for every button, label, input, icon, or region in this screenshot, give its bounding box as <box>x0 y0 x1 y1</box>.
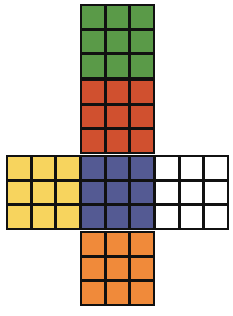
face-cell <box>181 206 203 228</box>
face-cell <box>131 282 153 304</box>
face-cell <box>33 182 55 204</box>
face-cell <box>107 130 129 152</box>
face-cell <box>82 182 104 204</box>
face-cell <box>131 206 153 228</box>
face-cell <box>57 182 79 204</box>
face-cell <box>33 206 55 228</box>
face-cell <box>205 182 227 204</box>
face-cell <box>8 182 30 204</box>
face-cell <box>131 6 153 28</box>
face-cell <box>181 157 203 179</box>
face-cell <box>181 182 203 204</box>
face-left-yellow <box>6 155 81 230</box>
face-cell <box>131 233 153 255</box>
face-cell <box>131 55 153 77</box>
face-cell <box>82 81 104 103</box>
face-cell <box>82 6 104 28</box>
face-cell <box>131 31 153 53</box>
face-cell <box>57 157 79 179</box>
face-cell <box>82 233 104 255</box>
face-cell <box>131 106 153 128</box>
face-cell <box>107 6 129 28</box>
face-cell <box>82 55 104 77</box>
face-cell <box>82 130 104 152</box>
face-cell <box>107 31 129 53</box>
face-cell <box>107 81 129 103</box>
face-cell <box>156 182 178 204</box>
face-cell <box>107 258 129 280</box>
face-cell <box>131 157 153 179</box>
face-cell <box>156 206 178 228</box>
face-cell <box>82 282 104 304</box>
face-top-green <box>80 4 155 79</box>
face-cell <box>205 206 227 228</box>
face-cell <box>82 106 104 128</box>
face-cell <box>131 258 153 280</box>
face-center-blue <box>80 155 155 230</box>
face-cell <box>82 31 104 53</box>
face-cell <box>107 282 129 304</box>
face-cell <box>205 157 227 179</box>
face-cell <box>107 157 129 179</box>
face-cell <box>33 157 55 179</box>
face-cell <box>107 233 129 255</box>
face-cell <box>156 157 178 179</box>
face-cell <box>57 206 79 228</box>
face-cell <box>107 55 129 77</box>
face-cell <box>131 130 153 152</box>
face-cell <box>82 258 104 280</box>
face-cell <box>131 182 153 204</box>
face-right-white <box>154 155 229 230</box>
face-bottom-orange <box>80 231 155 306</box>
face-cell <box>107 182 129 204</box>
face-cell <box>8 206 30 228</box>
face-cell <box>82 157 104 179</box>
face-cell <box>131 81 153 103</box>
face-cell <box>8 157 30 179</box>
face-cell <box>107 106 129 128</box>
face-red <box>80 79 155 154</box>
face-cell <box>107 206 129 228</box>
face-cell <box>82 206 104 228</box>
